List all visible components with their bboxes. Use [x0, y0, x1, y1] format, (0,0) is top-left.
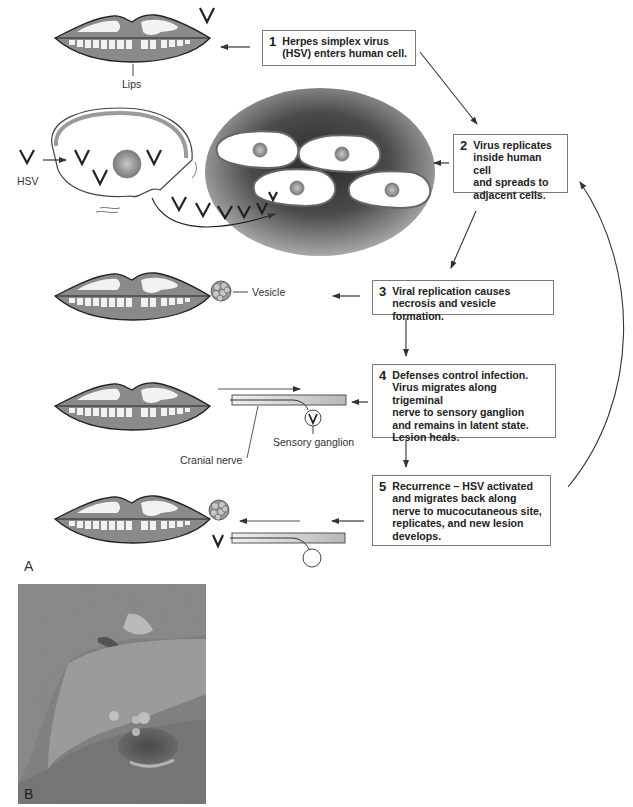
step-4-box: 4 Defenses control infection. Virus migr…	[372, 364, 556, 438]
step-number: 3	[379, 285, 386, 310]
lips-illustration-3	[55, 273, 248, 320]
step-text: Defenses control infection. Virus migrat…	[392, 369, 549, 433]
step-2-box: 2 Virus replicates inside human cell and…	[453, 134, 568, 193]
step-text: Herpes simplex virus (HSV) enters human …	[282, 35, 407, 61]
sensory-ganglion-label: Sensory ganglion	[273, 436, 354, 448]
step-number: 5	[379, 480, 386, 541]
step-text: Viral replication causes necrosis and ve…	[392, 285, 547, 310]
step-number: 2	[460, 139, 467, 188]
lips-illustration-1	[55, 8, 214, 76]
cranial-nerve-label: Cranial nerve	[180, 454, 242, 466]
step-number: 1	[269, 35, 276, 61]
vesicle-label: Vesicle	[252, 286, 285, 298]
clinical-photo	[18, 584, 206, 804]
step-3-box: 3 Viral replication causes necrosis and …	[372, 280, 554, 315]
step-1-box: 1 Herpes simplex virus (HSV) enters huma…	[262, 30, 416, 66]
step-number: 4	[379, 369, 386, 433]
panel-a-label: A	[24, 558, 33, 574]
virus-icon	[200, 8, 214, 22]
step-text: Recurrence – HSV activated and migrates …	[392, 480, 542, 541]
panel-b-label: B	[24, 786, 33, 802]
step-text: Virus replicates inside human cell and s…	[473, 139, 561, 188]
lips-label: Lips	[122, 78, 141, 90]
hsv-label: HSV	[17, 175, 39, 187]
step-5-box: 5 Recurrence – HSV activated and migrate…	[372, 475, 551, 546]
lips-illustration-5	[55, 496, 345, 567]
infected-tissue	[205, 88, 435, 256]
recurrence-arrow	[568, 182, 624, 487]
